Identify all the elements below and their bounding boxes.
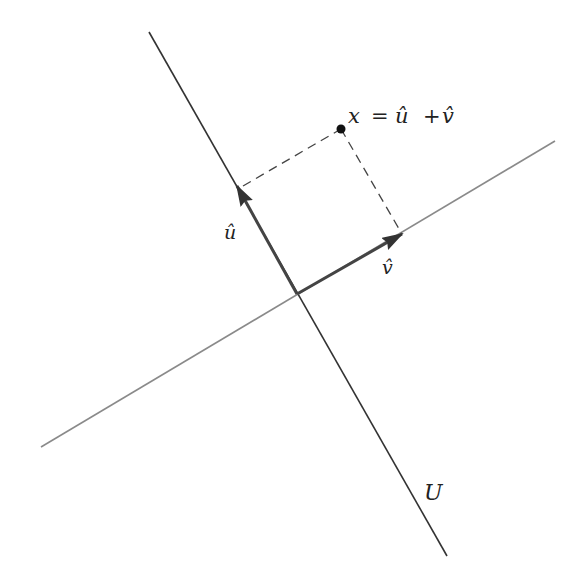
diagram-canvas: x = û + v̂ û v̂ U: [0, 0, 580, 582]
equation-term-v: v̂: [442, 104, 454, 128]
label-u-hat: û: [224, 221, 236, 243]
dashed-projection-v: [341, 129, 402, 234]
label-subspace-u: U: [424, 480, 444, 505]
equation-equals: =: [371, 104, 389, 128]
dashed-projection-u: [243, 129, 341, 186]
equation-plus: +: [423, 104, 441, 128]
label-v-hat: v̂: [382, 256, 393, 278]
point-x: [337, 125, 346, 134]
equation-term-u: û: [395, 104, 409, 128]
equation-lhs: x: [348, 104, 360, 128]
vector-u-hat: [237, 186, 297, 294]
